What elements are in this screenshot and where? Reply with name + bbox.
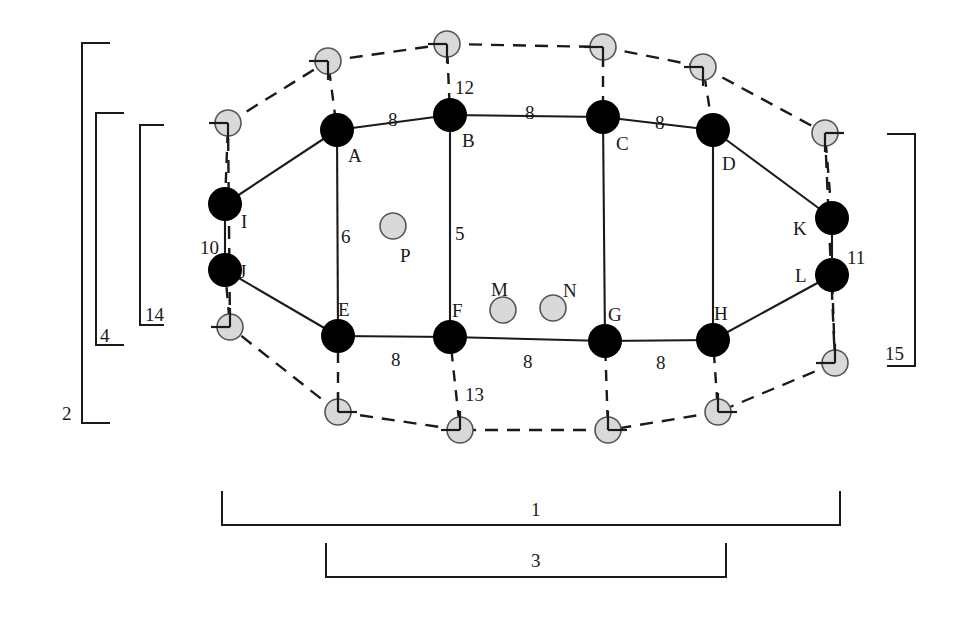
bracket-label-15: 15 <box>885 344 904 363</box>
solid-edges <box>225 115 832 341</box>
dashed-ring-segment <box>603 47 703 67</box>
solid-node-l <box>815 258 849 292</box>
bracket-label-3: 3 <box>531 551 541 570</box>
solid-edge <box>225 130 337 204</box>
edge-weight-f-g: 8 <box>523 352 533 371</box>
bracket-4 <box>96 113 124 345</box>
node-label-n: N <box>563 281 577 300</box>
node-label-b: B <box>462 131 475 150</box>
bracket-label-1: 1 <box>531 500 541 519</box>
edge-weight-a-b: 8 <box>388 110 398 129</box>
grey-plain-nodes <box>380 213 566 323</box>
node-label-j: J <box>239 262 246 281</box>
node-label-k: K <box>793 219 807 238</box>
bracket-label-14: 14 <box>145 305 164 324</box>
solid-node-a <box>320 113 354 147</box>
dashed-spoke <box>329 70 335 119</box>
dashed-spoke <box>605 352 607 421</box>
node-label-e: E <box>338 300 350 319</box>
dashed-ring-segment <box>608 412 718 430</box>
solid-node-d <box>696 113 730 147</box>
solid-node-k <box>815 201 849 235</box>
solid-node-j <box>208 253 242 287</box>
grey-node-p <box>380 213 406 239</box>
solid-edge <box>713 275 832 340</box>
bracket-label-4: 4 <box>100 326 110 345</box>
solid-edge <box>603 117 605 341</box>
dashed-spoke <box>826 142 831 207</box>
node-label-f: F <box>452 301 463 320</box>
dashed-ring-segment <box>338 412 460 430</box>
node-label-a: A <box>348 146 362 165</box>
node-label-l: L <box>795 266 807 285</box>
edge-weight-g-h: 8 <box>656 353 666 372</box>
edge-weight-e-f: 8 <box>391 350 401 369</box>
solid-node-b <box>433 98 467 132</box>
diagram-canvas: ABCDEFGHIJKLPMN888888651011121324141513 <box>0 0 967 618</box>
dashed-spoke <box>714 351 718 403</box>
solid-node-i <box>208 187 242 221</box>
edge-weight-m10-f: 13 <box>465 385 484 404</box>
bracket-label-2: 2 <box>62 404 72 423</box>
edge-weight-b-c: 8 <box>525 103 535 122</box>
dashed-spoke <box>704 76 711 119</box>
solid-edge <box>713 130 832 218</box>
edge-weight-k-l: 11 <box>847 248 865 267</box>
bracket-15 <box>887 134 915 366</box>
solid-node-f <box>433 320 467 354</box>
solid-node-h <box>696 323 730 357</box>
node-label-i: I <box>241 212 247 231</box>
node-label-m: M <box>491 280 508 299</box>
edge-weight-a-e: 6 <box>341 227 351 246</box>
edge-weight-b-f: 5 <box>455 224 465 243</box>
node-label-h: H <box>714 304 728 323</box>
bracket-14 <box>140 125 164 325</box>
dashed-spoke <box>451 348 459 421</box>
edge-weight-c-d: 8 <box>655 113 665 132</box>
bracket-3 <box>326 543 726 577</box>
node-label-d: D <box>722 154 736 173</box>
node-label-g: G <box>608 305 622 324</box>
solid-node-g <box>588 324 622 358</box>
grey-node-m <box>490 297 516 323</box>
solid-edge <box>450 337 605 341</box>
edge-weight-m3-b: 12 <box>455 78 474 97</box>
solid-node-c <box>586 100 620 134</box>
dashed-ring-segment <box>447 44 603 47</box>
edge-weight-i-j: 10 <box>200 238 219 257</box>
dashed-ring-segment <box>718 363 835 412</box>
dashed-ring-segment <box>228 61 328 123</box>
node-label-c: C <box>616 134 629 153</box>
solid-node-e <box>321 319 355 353</box>
dashed-ring-segment <box>328 44 447 61</box>
node-label-p: P <box>400 246 411 265</box>
